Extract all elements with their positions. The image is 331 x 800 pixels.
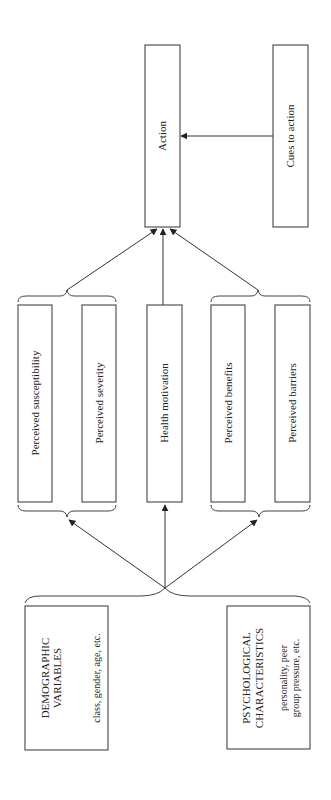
bottom-brace-threat [18,505,116,517]
arrow-benefits-to-action [170,229,258,290]
demographic-title-line2: VARIABLES [51,648,63,708]
perceived-barriers-label: Perceived barriers [286,363,298,443]
perceived-severity-node: Perceived severity [82,305,116,502]
perceived-susceptibility-label: Perceived susceptibility [29,350,41,455]
perceived-susceptibility-node: Perceived susceptibility [18,305,52,502]
demographic-variables-node: DEMOGRAPHIC VARIABLES class, gender, age… [25,606,108,750]
arrow-factors-to-threat [69,520,165,588]
perceived-severity-label: Perceived severity [93,362,105,443]
health-motivation-label: Health motivation [158,363,170,443]
action-node: Action [145,45,180,227]
arrow-factors-to-benefits [165,520,257,588]
bottom-brace-benefits [211,505,310,517]
top-brace-benefits [211,290,310,302]
psychological-characteristics-node: PSYCHOLOGICAL CHARACTERISTICS personalit… [227,606,310,749]
perceived-benefits-label: Perceived benefits [222,363,234,444]
demographic-title-line1: DEMOGRAPHIC [39,638,51,719]
perceived-barriers-node: Perceived barriers [275,305,310,502]
psychological-title-line2: CHARACTERISTICS [253,628,265,728]
perceived-benefits-node: Perceived benefits [211,305,245,502]
psychological-detail-line2: group pressure, etc. [290,639,301,717]
psychological-detail-line1: personality, peer [278,644,289,711]
psychological-title-line1: PSYCHOLOGICAL [240,632,252,724]
action-label: Action [156,121,168,151]
arrow-threat-to-action [67,229,157,290]
health-motivation-node: Health motivation [147,305,182,502]
top-brace-threat [18,290,116,302]
cues-to-action-node: Cues to action [273,45,308,227]
modifying-factors-brace [25,588,310,603]
health-belief-model-diagram: Action Cues to action Perceived suscepti… [0,0,331,800]
cues-to-action-label: Cues to action [284,104,296,167]
demographic-detail: class, gender, age, etc. [91,633,102,722]
